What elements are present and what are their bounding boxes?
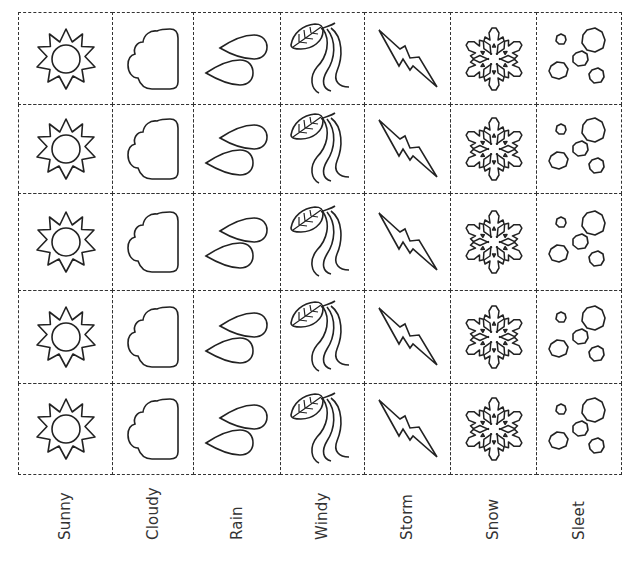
sleet-pellets-icon <box>547 396 611 462</box>
card-windy-3 <box>280 193 365 291</box>
card-storm-4 <box>364 290 451 384</box>
card-sleet-4 <box>536 290 622 384</box>
card-windy-2 <box>280 104 365 194</box>
lightning-bolt-icon <box>377 28 439 90</box>
card-cloudy-3 <box>112 193 194 291</box>
snowflake-icon <box>460 208 528 276</box>
card-rain-5 <box>193 383 281 475</box>
column-label-text: Storm <box>398 494 416 540</box>
card-cloudy-4 <box>112 290 194 384</box>
card-windy-1 <box>280 12 365 105</box>
card-sleet-2 <box>536 104 622 194</box>
card-storm-3 <box>364 193 451 291</box>
label-cloudy: Cloudy <box>138 485 168 545</box>
wind-leaf-icon <box>287 299 359 375</box>
cloud-icon <box>126 26 180 92</box>
label-storm: Storm <box>392 485 422 545</box>
sleet-pellets-icon <box>547 26 611 92</box>
card-storm-5 <box>364 383 451 475</box>
snowflake-icon <box>460 395 528 463</box>
lightning-bolt-icon <box>377 118 439 180</box>
snowflake-icon <box>460 303 528 371</box>
weather-cards-worksheet: SunnyCloudyRainWindyStormSnowSleet <box>0 0 633 565</box>
raindrops-icon <box>204 121 270 177</box>
card-sleet-5 <box>536 383 622 475</box>
card-windy-5 <box>280 383 365 475</box>
cloud-icon <box>126 116 180 182</box>
card-windy-4 <box>280 290 365 384</box>
card-cloudy-5 <box>112 383 194 475</box>
raindrops-icon <box>204 31 270 87</box>
sleet-pellets-icon <box>547 116 611 182</box>
card-rain-1 <box>193 12 281 105</box>
sun-icon <box>32 395 100 463</box>
card-sunny-1 <box>18 12 113 105</box>
card-storm-1 <box>364 12 451 105</box>
label-windy: Windy <box>307 485 337 545</box>
card-snow-2 <box>450 104 537 194</box>
wind-leaf-icon <box>287 21 359 97</box>
label-rain: Rain <box>222 485 252 545</box>
wind-leaf-icon <box>287 111 359 187</box>
column-label-text: Sleet <box>570 501 588 540</box>
sun-icon <box>32 208 100 276</box>
column-label-text: Windy <box>313 492 331 540</box>
snowflake-icon <box>460 25 528 93</box>
snowflake-icon <box>460 115 528 183</box>
card-snow-4 <box>450 290 537 384</box>
cloud-icon <box>126 209 180 275</box>
wind-leaf-icon <box>287 204 359 280</box>
card-rain-4 <box>193 290 281 384</box>
cloud-icon <box>126 304 180 370</box>
raindrops-icon <box>204 309 270 365</box>
wind-leaf-icon <box>287 391 359 467</box>
card-cloudy-1 <box>112 12 194 105</box>
lightning-bolt-icon <box>377 306 439 368</box>
label-sunny: Sunny <box>50 485 80 545</box>
card-snow-3 <box>450 193 537 291</box>
column-label-text: Cloudy <box>144 487 162 540</box>
card-rain-2 <box>193 104 281 194</box>
raindrops-icon <box>204 214 270 270</box>
card-snow-5 <box>450 383 537 475</box>
card-cloudy-2 <box>112 104 194 194</box>
card-sunny-2 <box>18 104 113 194</box>
label-snow: Snow <box>478 485 508 545</box>
lightning-bolt-icon <box>377 211 439 273</box>
card-sleet-1 <box>536 12 622 105</box>
sun-icon <box>32 115 100 183</box>
column-label-text: Rain <box>228 506 246 540</box>
label-sleet: Sleet <box>564 485 594 545</box>
sleet-pellets-icon <box>547 304 611 370</box>
column-label-text: Snow <box>484 499 502 540</box>
card-rain-3 <box>193 193 281 291</box>
card-sleet-3 <box>536 193 622 291</box>
card-sunny-5 <box>18 383 113 475</box>
card-sunny-3 <box>18 193 113 291</box>
sleet-pellets-icon <box>547 209 611 275</box>
card-sunny-4 <box>18 290 113 384</box>
card-snow-1 <box>450 12 537 105</box>
cloud-icon <box>126 396 180 462</box>
column-label-text: Sunny <box>56 492 74 540</box>
card-storm-2 <box>364 104 451 194</box>
sun-icon <box>32 303 100 371</box>
raindrops-icon <box>204 401 270 457</box>
sun-icon <box>32 25 100 93</box>
lightning-bolt-icon <box>377 398 439 460</box>
